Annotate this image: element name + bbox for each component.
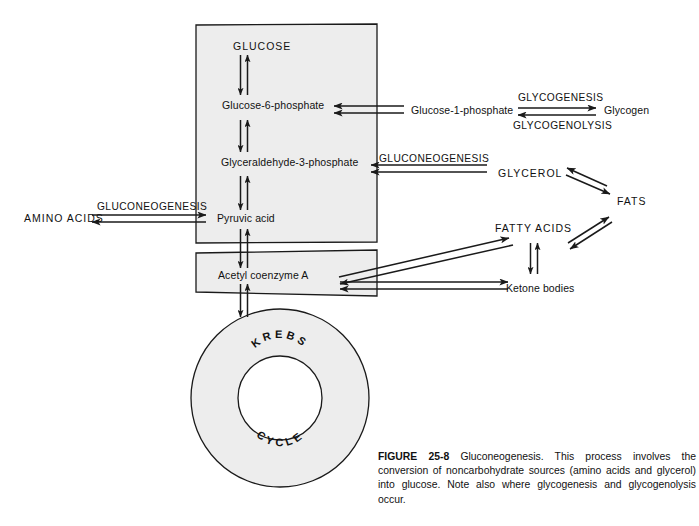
arrow-glycerol-to-ga3p [371, 165, 487, 172]
label-glyceraldehyde-3-phosphate: Glyceraldehyde-3-phosphate [221, 157, 358, 168]
arrow-fattyacids-fats [568, 217, 612, 249]
arrow-aminoacids-to-pyruvate [92, 215, 206, 222]
krebs-cycle-ring: KREBS CYCLE [191, 309, 369, 487]
label-acetyl-coenzyme-a: Acetyl coenzyme A [218, 270, 308, 281]
arrow-fattyacids-ketones [531, 243, 538, 274]
label-fats: FATS [617, 196, 646, 207]
label-gluconeogenesis-amino: GLUCONEOGENESIS [97, 202, 207, 212]
metabolic-pathway-diagram: KREBS CYCLE [0, 0, 699, 526]
label-glycogen: Glycogen [604, 105, 649, 116]
figure-number: FIGURE 25-8 [378, 451, 449, 462]
figure-page: KREBS CYCLE [0, 0, 699, 526]
label-glycogenesis: GLYCOGENESIS [518, 93, 604, 103]
label-fatty-acids: FATTY ACIDS [495, 223, 572, 234]
label-glucose: GLUCOSE [233, 41, 291, 52]
label-pyruvic-acid: Pyruvic acid [217, 213, 275, 224]
label-glycogenolysis: GLYCOGENOLYSIS [513, 121, 612, 131]
label-amino-acids: AMINO ACIDS [24, 213, 104, 224]
label-glucose-1-phosphate: Glucose-1-phosphate [411, 105, 513, 116]
label-gluconeogenesis-glycerol: GLUCONEOGENESIS [379, 154, 489, 164]
label-glycerol: GLYCEROL [498, 168, 562, 179]
figure-title: Gluconeogenesis. [460, 451, 543, 462]
glycolysis-pathway-panel [196, 24, 377, 243]
label-glucose-6-phosphate: Glucose-6-phosphate [222, 100, 324, 111]
arrow-glycerol-fats [566, 168, 610, 194]
label-ketone-bodies: Ketone bodies [506, 283, 574, 294]
figure-caption: FIGURE 25-8 Gluconeogenesis. This proces… [378, 450, 696, 507]
